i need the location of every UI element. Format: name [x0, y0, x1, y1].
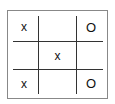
tic-tac-toe-board: x O x x O — [7, 10, 108, 99]
cell-0-2[interactable]: O — [77, 13, 105, 41]
cell-1-2[interactable] — [77, 42, 105, 69]
cell-1-1[interactable]: x — [39, 42, 76, 69]
cell-0-0[interactable]: x — [10, 13, 38, 41]
cell-0-1[interactable] — [39, 13, 76, 41]
cell-2-0[interactable]: x — [10, 70, 38, 97]
cell-1-0[interactable] — [10, 42, 38, 69]
cell-2-1[interactable] — [39, 70, 76, 97]
cell-2-2[interactable]: O — [77, 70, 105, 97]
